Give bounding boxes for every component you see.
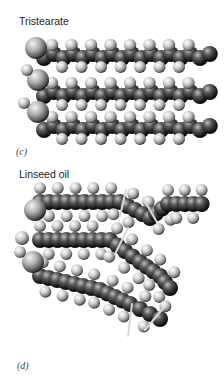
hydrogen-atom	[115, 133, 127, 145]
hydrogen-atom	[153, 223, 165, 235]
hydrogen-atom	[57, 290, 69, 302]
glycerol-atom	[15, 231, 29, 245]
carbon-atom	[194, 196, 210, 212]
hydrogen-atom	[168, 266, 180, 278]
hydrogen-atom	[154, 133, 166, 145]
hydrogen-atom	[88, 297, 100, 309]
hydrogen-atom	[76, 61, 88, 73]
hydrogen-atom	[154, 254, 166, 266]
hydrogen-atom	[196, 184, 208, 196]
hydrogen-atom	[65, 39, 77, 51]
hydrogen-atom	[143, 77, 155, 89]
hydrogen-atom	[107, 208, 119, 220]
hydrogen-atom	[95, 61, 107, 73]
hydrogen-atom	[71, 264, 83, 276]
hydrogen-atom	[85, 77, 97, 89]
hydrogen-atom	[124, 77, 136, 89]
hydrogen-atom	[182, 39, 194, 51]
hydrogen-atom	[182, 111, 194, 123]
hydrogen-atom	[162, 184, 174, 196]
hydrogen-atom	[141, 244, 153, 256]
glycerol-atom	[24, 199, 46, 221]
hydrogen-atom	[143, 111, 155, 123]
hydrogen-atom	[173, 133, 185, 145]
hydrogen-atom	[179, 184, 191, 196]
hydrogen-atom	[70, 182, 82, 194]
hydrogen-atom	[76, 99, 88, 111]
hydrogen-atom	[173, 99, 185, 111]
hydrogen-atom	[143, 279, 155, 291]
hydrogen-atom	[163, 77, 175, 89]
hydrogen-atom	[143, 39, 155, 51]
hydrogen-atom	[127, 187, 139, 199]
carbon-atom	[202, 118, 218, 134]
hydrogen-atom	[103, 251, 115, 263]
hydrogen-atom	[76, 133, 88, 145]
hydrogen-atom	[87, 220, 99, 232]
hydrogen-atom	[115, 61, 127, 73]
hydrogen-atom	[104, 77, 116, 89]
hydrogen-atom	[95, 99, 107, 111]
hydrogen-atom	[163, 39, 175, 51]
hydrogen-atom	[95, 133, 107, 145]
hydrogen-atom	[65, 77, 77, 89]
hydrogen-atom	[85, 39, 97, 51]
hydrogen-atom	[56, 133, 68, 145]
hydrogen-atom	[122, 216, 134, 228]
glycerol-atom	[27, 101, 49, 123]
hydrogen-atom	[96, 210, 108, 222]
glycerol-atom	[14, 246, 26, 258]
hydrogen-atom	[78, 248, 90, 260]
hydrogen-atom	[133, 272, 145, 284]
hydrogen-atom	[115, 99, 127, 111]
hydrogen-atom	[173, 61, 185, 73]
hydrogen-atom	[126, 233, 138, 245]
carbon-atom	[202, 84, 218, 100]
tristearate-model	[18, 37, 218, 145]
hydrogen-atom	[52, 220, 64, 232]
hydrogen-atom	[124, 39, 136, 51]
hydrogen-atom	[46, 39, 58, 51]
hydrogen-atom	[56, 61, 68, 73]
hydrogen-atom	[118, 262, 130, 274]
hydrogen-atom	[134, 99, 146, 111]
hydrogen-atom	[74, 294, 86, 306]
hydrogen-atom	[78, 210, 90, 222]
carbon-atom	[202, 46, 218, 62]
hydrogen-atom	[134, 133, 146, 145]
hydrogen-atom	[187, 212, 199, 224]
hydrogen-atom	[56, 99, 68, 111]
hydrogen-atom	[182, 77, 194, 89]
hydrogen-atom	[154, 99, 166, 111]
glycerol-atom	[18, 97, 30, 109]
linseed-oil-model	[14, 182, 210, 336]
hydrogen-atom	[61, 210, 73, 222]
hydrogen-atom	[104, 111, 116, 123]
hydrogen-atom	[54, 260, 66, 272]
hydrogen-atom	[124, 111, 136, 123]
hydrogen-atom	[60, 248, 72, 260]
carbon-atom	[162, 280, 178, 296]
hydrogen-atom	[52, 182, 64, 194]
hydrogen-atom	[118, 311, 130, 323]
glycerol-atom	[25, 37, 47, 59]
hydrogen-atom	[170, 212, 182, 224]
hydrogen-atom	[107, 275, 119, 287]
hydrogen-atom	[65, 111, 77, 123]
hydrogen-atom	[69, 220, 81, 232]
hydrogen-atom	[87, 182, 99, 194]
hydrogen-atom	[88, 268, 100, 280]
hydrogen-atom	[105, 182, 117, 194]
hydrogen-atom	[139, 290, 151, 302]
hydrogen-atom	[154, 61, 166, 73]
glycerol-atom	[21, 64, 33, 76]
hydrogen-atom	[34, 182, 46, 194]
hydrogen-atom	[163, 111, 175, 123]
hydrogen-atom	[111, 222, 123, 234]
hydrogen-atom	[134, 61, 146, 73]
hydrogen-atom	[103, 304, 115, 316]
hydrogen-atom	[85, 111, 97, 123]
hydrogen-atom	[122, 282, 134, 294]
hydrogen-atom	[104, 39, 116, 51]
hydrogen-atom	[34, 220, 46, 232]
